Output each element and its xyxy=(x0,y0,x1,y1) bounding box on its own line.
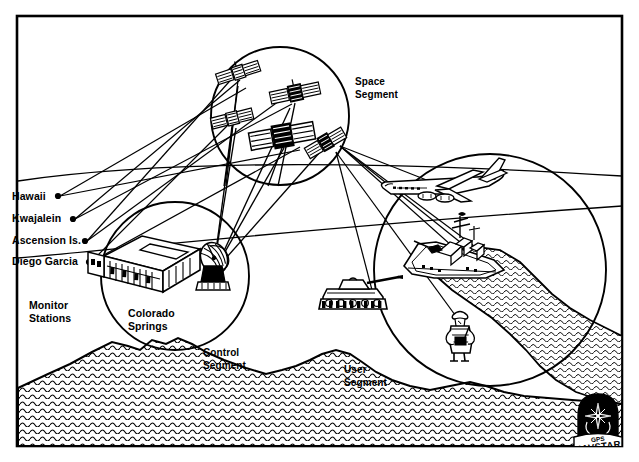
user-segment-label: User Segment xyxy=(344,364,387,389)
soldier xyxy=(446,312,474,362)
dot-hawaii xyxy=(55,193,61,199)
dot-kwajalein xyxy=(70,216,76,222)
monitor-station-label-hawaii: Hawaii xyxy=(12,190,46,203)
monitor-station-signal-lines xyxy=(60,74,300,262)
space-segment-label: Space Segment xyxy=(355,76,398,101)
dot-ascension-is xyxy=(82,238,88,244)
control-segment-label: Control Segment xyxy=(203,347,246,372)
master-control-building xyxy=(88,236,200,292)
monitor-station-label-ascension-is: Ascension Is. xyxy=(12,234,81,247)
gps-navstar-logo: GPS NAVSTAR xyxy=(574,394,622,458)
monitor-station-label-kwajalein: Kwajalein xyxy=(12,212,61,225)
tank xyxy=(319,275,403,309)
colorado-springs-label: Colorado Springs xyxy=(128,307,175,332)
diagram-canvas: GPS NAVSTAR xyxy=(0,0,639,462)
monitor-stations-group-label: Monitor Stations xyxy=(29,299,71,324)
monitor-station-label-diego-garcia: Diego Garcia xyxy=(12,255,78,268)
gps-navstar-diagram: GPS NAVSTAR Hawaii Kwajalein Ascension I… xyxy=(0,0,639,462)
